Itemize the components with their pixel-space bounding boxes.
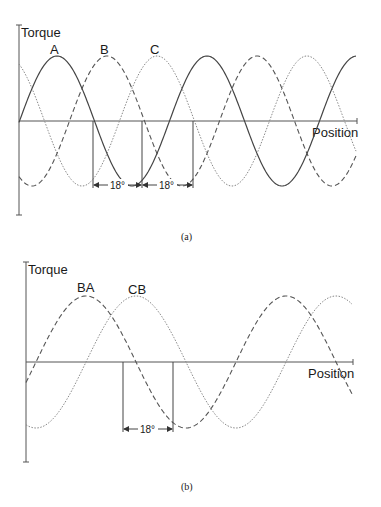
torque-position-diagram: Torque Position A B C 18° 18° (a) Torque… bbox=[0, 0, 381, 507]
dimension-label: 18° bbox=[140, 424, 155, 435]
curve-label-a: A bbox=[50, 42, 59, 57]
panel-b: Torque Position BA CB 18° (b) bbox=[23, 262, 354, 493]
dimension-label-2: 18° bbox=[159, 180, 174, 191]
y-axis-label: Torque bbox=[28, 262, 68, 277]
x-axis-label: Position bbox=[312, 125, 358, 140]
panel-a: Torque Position A B C 18° 18° (a) bbox=[16, 25, 358, 243]
curve-label-b: B bbox=[100, 42, 109, 57]
caption-b: (b) bbox=[181, 481, 193, 493]
curve-label-cb: CB bbox=[128, 282, 146, 297]
x-axis-label: Position bbox=[308, 366, 354, 381]
curve-label-ba: BA bbox=[77, 280, 95, 295]
y-axis-label: Torque bbox=[21, 25, 61, 40]
curve-label-c: C bbox=[150, 42, 159, 57]
dimension-label-1: 18° bbox=[110, 180, 125, 191]
caption-a: (a) bbox=[181, 231, 192, 243]
